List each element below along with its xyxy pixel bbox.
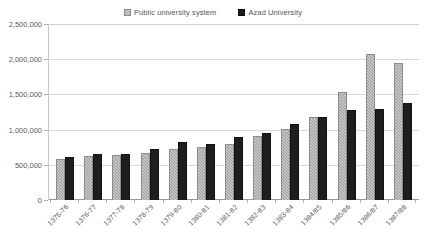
bar-public-university-system	[338, 92, 347, 200]
bar-group	[333, 24, 361, 200]
bar-azad-university	[318, 117, 327, 200]
bar-group	[192, 24, 220, 200]
bar-azad-university	[178, 142, 187, 200]
x-label-slot: 1387/88	[388, 202, 416, 249]
x-axis-labels: 1375-761376-771377-781378-791379-801380-…	[48, 202, 418, 249]
chart-legend: Public university system Azad University	[0, 5, 426, 19]
y-tick-label: 1,000,000	[9, 125, 42, 134]
bar-azad-university	[403, 103, 412, 200]
y-tick-label: 0	[38, 196, 42, 205]
x-tick-label: 1378-79	[131, 203, 155, 227]
legend-swatch-icon-azad	[238, 9, 245, 16]
x-label-slot: 1383-84	[275, 202, 303, 249]
bar-public-university-system	[309, 117, 318, 200]
bar-azad-university	[234, 137, 243, 200]
bar-azad-university	[65, 157, 74, 200]
bar-public-university-system	[253, 136, 262, 200]
x-tick-label: 1387/88	[384, 203, 407, 226]
bar-public-university-system	[141, 153, 150, 200]
x-tick-label: 1375-76	[46, 203, 70, 227]
bar-public-university-system	[281, 129, 290, 200]
x-tick-label: 1380-81	[187, 203, 211, 227]
bar-public-university-system	[197, 147, 206, 200]
x-tick-label: 1379-80	[159, 203, 183, 227]
plot-area	[48, 24, 419, 200]
bar-group	[79, 24, 107, 200]
x-tick-label: 1381-82	[215, 203, 239, 227]
bar-public-university-system	[169, 149, 178, 200]
bar-azad-university	[121, 154, 130, 200]
x-label-slot: 1384/85	[303, 202, 331, 249]
bar-azad-university	[290, 124, 299, 200]
x-tick-label: 1386/87	[356, 203, 379, 226]
x-tick-label: 1383-84	[271, 203, 295, 227]
legend-label-azad: Azad University	[248, 8, 302, 17]
bar-public-university-system	[366, 54, 375, 200]
bar-chart: Public university system Azad University…	[0, 0, 426, 249]
x-label-slot: 1378-79	[134, 202, 162, 249]
y-tick-label: 2,500,000	[9, 20, 42, 29]
bar-azad-university	[206, 144, 215, 200]
bar-azad-university	[93, 154, 102, 200]
bar-public-university-system	[84, 156, 93, 200]
bar-groups	[49, 24, 419, 200]
legend-swatch-icon-public	[124, 9, 131, 16]
x-tick-label: 1382-83	[243, 203, 267, 227]
bar-group	[248, 24, 276, 200]
x-label-slot: 1379-80	[163, 202, 191, 249]
x-label-slot: 1386/87	[360, 202, 388, 249]
bar-azad-university	[375, 109, 384, 200]
bar-group	[389, 24, 417, 200]
bar-group	[276, 24, 304, 200]
bar-group	[164, 24, 192, 200]
bar-group	[107, 24, 135, 200]
y-axis-labels: 2,500,000 2,000,000 1,500,000 1,000,000 …	[0, 24, 45, 200]
x-label-slot: 1380-81	[191, 202, 219, 249]
legend-item-public-university-system: Public university system	[124, 8, 216, 17]
y-tick-label: 2,000,000	[9, 55, 42, 64]
bar-public-university-system	[112, 155, 121, 200]
bar-group	[220, 24, 248, 200]
bar-public-university-system	[56, 159, 65, 200]
x-tick-label: 1384/85	[300, 203, 323, 226]
bar-group	[304, 24, 332, 200]
x-label-slot: 1382-83	[247, 202, 275, 249]
x-label-slot: 1385/86	[332, 202, 360, 249]
bar-group	[51, 24, 79, 200]
y-tick-label: 1,500,000	[9, 90, 42, 99]
x-label-slot: 1377-78	[106, 202, 134, 249]
bar-group	[135, 24, 163, 200]
x-tick-label: 1376-77	[74, 203, 98, 227]
x-label-slot: 1376-77	[78, 202, 106, 249]
bar-public-university-system	[394, 63, 403, 200]
y-tick-label: 500,000	[15, 160, 42, 169]
legend-label-public: Public university system	[134, 8, 216, 17]
bar-azad-university	[262, 133, 271, 200]
x-tick-label: 1377-78	[102, 203, 126, 227]
bar-public-university-system	[225, 144, 234, 200]
bar-azad-university	[347, 110, 356, 200]
x-tick-label: 1385/86	[328, 203, 351, 226]
legend-item-azad-university: Azad University	[238, 8, 302, 17]
bar-azad-university	[150, 149, 159, 200]
x-label-slot: 1381-82	[219, 202, 247, 249]
x-label-slot: 1375-76	[50, 202, 78, 249]
bar-group	[361, 24, 389, 200]
